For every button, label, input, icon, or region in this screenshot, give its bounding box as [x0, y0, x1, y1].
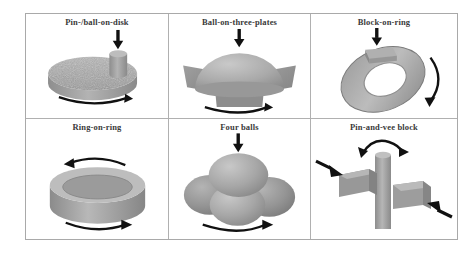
ball-top — [209, 153, 269, 197]
cell-title-pin-and-vee-block: Pin-and-vee block — [311, 122, 457, 132]
curved-rotation-arrow-icon — [363, 141, 403, 153]
curved-rotation-arrow-icon-top — [70, 159, 126, 165]
diagram-pin-ball-on-disk — [26, 28, 168, 118]
cell-title-pin-ball-on-disk: Pin-/ball-on-disk — [26, 17, 168, 27]
down-arrow-icon — [234, 29, 244, 47]
cell-ball-on-three-plates: Ball-on-three-plates — [169, 14, 311, 119]
diagram-ball-on-three-plates — [169, 28, 310, 118]
configuration-grid: Pin-/ball-on-disk — [26, 14, 457, 239]
cell-title-ring-on-ring: Ring-on-ring — [26, 122, 168, 132]
cell-title-four-balls: Four balls — [169, 122, 310, 132]
curved-rotation-arrow-icon — [205, 107, 267, 112]
rotation-arrow-head — [425, 97, 436, 107]
rotation-arrow-head-top — [64, 158, 75, 168]
cell-title-ball-on-three-plates: Ball-on-three-plates — [169, 17, 310, 27]
pin-top — [375, 152, 391, 158]
down-arrow-icon — [233, 133, 244, 152]
cell-pin-and-vee-block: Pin-and-vee block — [311, 119, 457, 239]
ball-base — [195, 81, 284, 97]
cell-pin-ball-on-disk: Pin-/ball-on-disk — [26, 14, 169, 119]
pin-shaft — [375, 155, 391, 229]
rotation-arrow-head — [399, 147, 409, 157]
diagram-block-on-ring — [311, 28, 457, 118]
pin-top — [109, 50, 127, 57]
diagram-four-balls — [169, 133, 310, 239]
diagram-pin-and-vee-block — [311, 133, 457, 239]
pin-body — [109, 54, 127, 78]
cell-title-block-on-ring: Block-on-ring — [311, 17, 457, 27]
tribometer-configurations-figure: Pin-/ball-on-disk — [25, 13, 458, 240]
cell-block-on-ring: Block-on-ring — [311, 14, 457, 119]
curved-rotation-arrow-icon — [203, 225, 266, 231]
rotation-arrow-head — [264, 103, 273, 112]
side-load-arrow-icon-right — [427, 201, 453, 218]
rotation-arrow-head — [124, 94, 133, 103]
side-load-arrow-icon-left — [315, 160, 343, 177]
vee-block-left-side — [369, 169, 377, 195]
down-arrow-icon — [372, 28, 382, 46]
curved-rotation-arrow-icon — [430, 58, 438, 102]
diagram-ring-on-ring — [26, 133, 168, 239]
rotation-arrow-head — [262, 220, 273, 230]
cell-ring-on-ring: Ring-on-ring — [26, 119, 169, 239]
rotation-arrow-head-bottom — [121, 220, 132, 230]
ring — [331, 35, 435, 118]
down-arrow-icon — [113, 30, 123, 49]
cell-four-balls: Four balls — [169, 119, 311, 239]
